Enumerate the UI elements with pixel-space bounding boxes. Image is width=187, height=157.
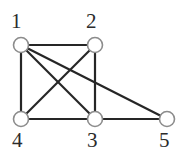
graph-node-1 (14, 38, 29, 53)
graph-node-2 (88, 38, 103, 53)
graph-node-5 (160, 112, 175, 127)
graph-node-4 (14, 112, 29, 127)
graph-node-label-2: 2 (86, 11, 97, 32)
graph-figure: 12345 (0, 0, 187, 157)
graph-node-3 (88, 112, 103, 127)
graph-node-label-4: 4 (12, 130, 23, 151)
graph-node-label-5: 5 (159, 130, 170, 151)
graph-node-label-3: 3 (87, 130, 98, 151)
edge-layer (21, 45, 167, 119)
graph-node-label-1: 1 (11, 11, 22, 32)
